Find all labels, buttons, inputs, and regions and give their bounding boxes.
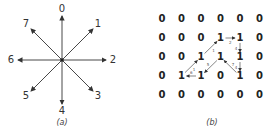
grid-cell: 0	[256, 14, 263, 24]
grid-cell: 0	[198, 14, 205, 24]
grid-cell: 0	[159, 71, 166, 81]
grid-cell: 0	[256, 33, 263, 43]
grid-cell: 0	[198, 90, 205, 100]
grid-cell: 0	[217, 14, 224, 24]
direction-label-7: 7	[23, 19, 29, 29]
chain-code-label: 1	[193, 67, 196, 72]
grid-cell: 1	[198, 52, 205, 62]
grid-cell: 1	[237, 71, 244, 81]
arrow	[62, 60, 93, 91]
chain-code-label: 1	[212, 48, 215, 53]
grid-cell: 1	[237, 33, 244, 43]
chain-code-label: 2	[229, 40, 232, 45]
grid-cell: 1	[178, 71, 185, 81]
grid-cell: 0	[178, 14, 185, 24]
grid-cell: 1	[198, 71, 205, 81]
chain-code-label: 4	[235, 64, 238, 69]
direction-diagram: 01234567 (a)	[0, 0, 130, 136]
grid-cell: 0	[178, 33, 185, 43]
direction-label-4: 4	[59, 106, 65, 116]
arrow	[62, 29, 93, 60]
grid-cell: 0	[256, 71, 263, 81]
grid-cell: 0	[237, 90, 244, 100]
grid-cell: 1	[217, 33, 224, 43]
chain-code-label: 4	[235, 45, 238, 50]
grid-cell: 0	[159, 90, 166, 100]
grid-cell: 0	[178, 52, 185, 62]
direction-label-0: 0	[59, 4, 65, 14]
grid-cell: 1	[237, 52, 244, 62]
arrow	[31, 60, 62, 91]
chain-code-label: 7	[232, 61, 235, 66]
grid-cell: 0	[159, 33, 166, 43]
direction-label-2: 2	[110, 55, 116, 65]
direction-label-1: 1	[95, 19, 101, 29]
grid-cell: 0	[256, 52, 263, 62]
grid-cell: 0	[217, 71, 224, 81]
grid-cell: 0	[237, 14, 244, 24]
chain-code-grid: 00000000011000111001101000000024475611 (…	[130, 0, 276, 136]
grid-cell: 0	[256, 90, 263, 100]
grid-cell: 0	[159, 14, 166, 24]
caption-a: (a)	[56, 118, 67, 127]
grid-cell: 1	[217, 52, 224, 62]
caption-b: (b)	[206, 118, 217, 127]
grid-cell: 0	[178, 90, 185, 100]
grid-cell: 0	[217, 90, 224, 100]
direction-label-3: 3	[95, 91, 101, 101]
grid-cell: 0	[159, 52, 166, 62]
grid-cell: 0	[198, 33, 205, 43]
direction-label-5: 5	[23, 91, 29, 101]
chain-code-label: 5	[207, 61, 210, 66]
arrow	[31, 29, 62, 60]
direction-label-6: 6	[8, 55, 14, 65]
